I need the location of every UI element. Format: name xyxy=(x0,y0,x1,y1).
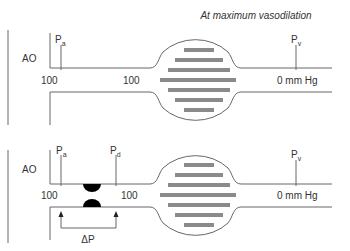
pd-label: Pd xyxy=(110,145,121,158)
pa-label: Pa xyxy=(55,34,66,47)
aorta-label: AO xyxy=(22,164,37,175)
microvascular-bed xyxy=(160,163,236,227)
pressure-gradient-bracket xyxy=(61,215,116,228)
pressure-value: 100 xyxy=(121,190,138,201)
pressure-value: 100 xyxy=(41,75,58,86)
microvascular-bed xyxy=(160,48,236,112)
pressure-value: 100 xyxy=(41,190,58,201)
diagram-title: At maximum vasodilation xyxy=(199,10,312,21)
aorta-label: AO xyxy=(22,53,37,64)
top-panel: AO Pa Pv 100 100 0 mm Hg xyxy=(8,30,332,125)
stenosis-lower xyxy=(83,199,101,207)
coronary-flow-diagram: At maximum vasodilation AO Pa Pv 100 100… xyxy=(0,0,350,251)
arrow-up-icon xyxy=(59,211,64,217)
arrow-up-icon xyxy=(114,211,119,217)
bottom-panel: AO Pa Pd Pv 100 100 0 mm Hg ΔP xyxy=(8,145,332,245)
pressure-value: 100 xyxy=(123,75,140,86)
pressure-value: 0 mm Hg xyxy=(277,190,318,201)
pressure-value: 0 mm Hg xyxy=(277,75,318,86)
delta-p-label: ΔP xyxy=(81,234,95,245)
stenosis-upper xyxy=(83,184,101,192)
